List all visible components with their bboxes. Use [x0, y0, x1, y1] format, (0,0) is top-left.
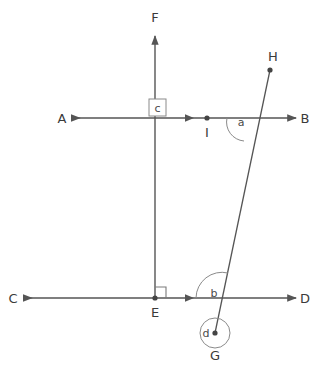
point-marker-e — [152, 295, 157, 300]
point-label-a: A — [58, 111, 67, 126]
angle-b-label: b — [211, 287, 218, 300]
point-label-f: F — [151, 10, 158, 25]
line-ab-group — [72, 114, 296, 122]
line-ab-direction-arrow — [185, 114, 194, 122]
point-label-b: B — [301, 111, 310, 126]
point-label-d: D — [300, 291, 310, 306]
line-gh — [215, 70, 270, 333]
line-cd-group — [24, 294, 296, 302]
line-gh-group — [215, 70, 270, 333]
point-label-c: C — [8, 291, 17, 306]
line-cd-direction-arrow — [185, 294, 194, 302]
point-marker-i — [204, 115, 209, 120]
diagram-canvas: c a b d A B C D E F — [0, 0, 325, 374]
point-label-i: I — [205, 125, 209, 140]
point-marker-h — [267, 67, 272, 72]
angle-d-label: d — [203, 327, 210, 340]
point-label-g: G — [210, 348, 220, 363]
angle-c-label: c — [154, 102, 160, 115]
angle-a-label: a — [238, 116, 245, 129]
angle-a-group: a — [227, 116, 245, 141]
angle-c-group: c — [149, 99, 166, 116]
point-label-h: H — [268, 49, 278, 64]
point-label-e: E — [151, 305, 159, 320]
point-marker-g — [212, 330, 217, 335]
geometry-figure: c a b d A B C D E F — [0, 0, 325, 374]
